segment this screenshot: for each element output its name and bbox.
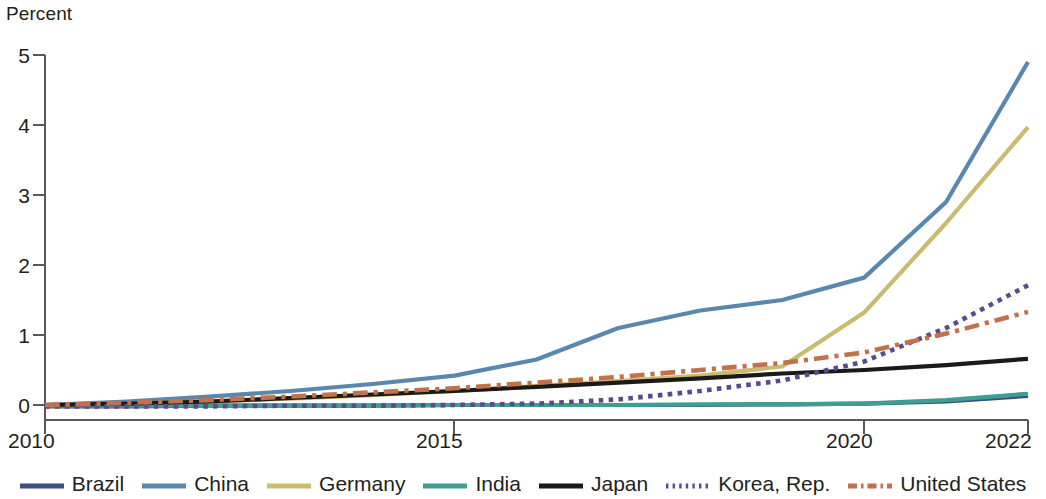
- legend-item-brazil[interactable]: Brazil: [20, 472, 125, 496]
- legend-item-china[interactable]: China: [142, 472, 249, 496]
- legend-label: China: [194, 472, 249, 496]
- legend-item-korea-rep[interactable]: Korea, Rep.: [666, 472, 830, 496]
- legend-label: Brazil: [72, 472, 125, 496]
- legend-item-united-states[interactable]: United States: [848, 472, 1026, 496]
- legend-label: Korea, Rep.: [718, 472, 830, 496]
- legend-label: United States: [900, 472, 1026, 496]
- legend-swatch-icon: [423, 478, 467, 490]
- legend-label: Japan: [591, 472, 648, 496]
- chart-container: Percent 5 4 3 2 1 0 2010 2015 2020 2022 …: [0, 0, 1046, 499]
- legend-swatch-icon: [666, 478, 710, 490]
- legend-label: Germany: [319, 472, 405, 496]
- plot-area: [0, 0, 1046, 470]
- chart-legend: BrazilChinaGermanyIndiaJapanKorea, Rep.U…: [0, 468, 1046, 499]
- legend-swatch-icon: [142, 478, 186, 490]
- legend-label: India: [475, 472, 521, 496]
- data-series-layer: [45, 62, 1028, 406]
- legend-swatch-icon: [267, 478, 311, 490]
- axis-lines: [33, 55, 1028, 434]
- legend-swatch-icon: [848, 478, 892, 490]
- legend-item-germany[interactable]: Germany: [267, 472, 405, 496]
- legend-item-japan[interactable]: Japan: [539, 472, 648, 496]
- series-line-germany: [45, 127, 1028, 405]
- legend-item-india[interactable]: India: [423, 472, 521, 496]
- legend-swatch-icon: [539, 478, 583, 490]
- legend-swatch-icon: [20, 478, 64, 490]
